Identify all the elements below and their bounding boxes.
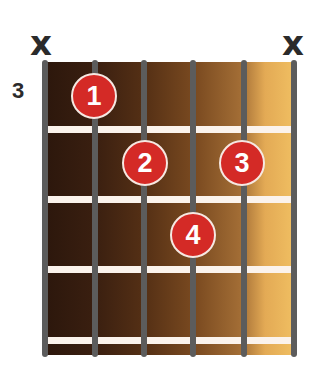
string-2 (241, 60, 247, 357)
mute-marker-string-6: x (30, 26, 52, 60)
string-3 (190, 60, 196, 357)
string-1 (291, 60, 297, 357)
start-fret-label: 3 (12, 78, 24, 104)
fret-line (45, 126, 295, 133)
string-6 (42, 60, 48, 357)
string-4 (141, 60, 147, 357)
finger-dot-2: 2 (122, 140, 168, 186)
finger-dot-4: 4 (170, 212, 216, 258)
fret-line (45, 337, 295, 344)
fret-line (45, 266, 295, 273)
finger-dot-1: 1 (71, 73, 117, 119)
mute-marker-string-1: x (282, 26, 304, 60)
fret-line (45, 196, 295, 203)
finger-dot-3: 3 (219, 140, 265, 186)
